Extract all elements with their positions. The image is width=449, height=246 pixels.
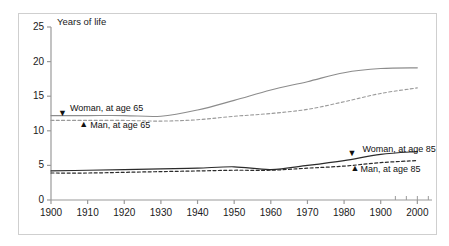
down-triangle-marker: ▼ [58,109,67,118]
series-annotation-label: Woman, at age 85 [362,144,435,154]
y-tick-label: 25 [19,21,44,32]
y-tick-label: 10 [19,125,44,136]
series-annotation-label: Man, at age 65 [90,120,150,130]
up-triangle-marker: ▲ [350,164,359,173]
y-tick-label: 15 [19,90,44,101]
series-annotation-label: Man, at age 85 [360,164,420,174]
y-tick-label: 0 [19,194,44,205]
down-triangle-marker: ▼ [347,149,356,158]
up-triangle-marker: ▲ [79,120,88,129]
series-annotation-label: Woman, at age 65 [70,103,143,113]
x-tick-label: 2000 [395,207,439,218]
y-tick-label: 5 [19,159,44,170]
y-tick-label: 20 [19,56,44,67]
chart-figure: Years of life 05101520251900191019201930… [18,13,437,235]
